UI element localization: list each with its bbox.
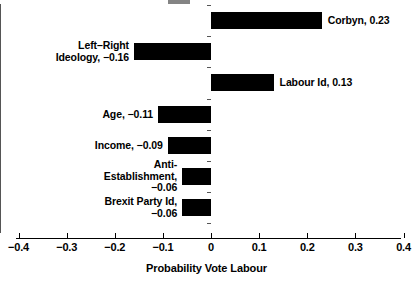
x-tick: [163, 233, 164, 238]
bar-label-line: Ideology, −0.16: [56, 52, 129, 64]
bar-label-line: −0.06: [104, 182, 177, 194]
x-axis-title: Probability Vote Labour: [0, 262, 413, 274]
x-tick: [115, 233, 116, 238]
x-tick: [67, 233, 68, 238]
x-tick: [19, 233, 20, 238]
x-tick-label: 0.4: [382, 241, 413, 253]
bar-corbyn: [211, 12, 322, 29]
category-tick: [207, 161, 211, 162]
category-tick: [207, 99, 211, 100]
x-tick: [355, 233, 356, 238]
bar-anti-establishment: [182, 168, 211, 185]
x-tick: [259, 233, 260, 238]
bar-age: [158, 106, 211, 123]
x-tick: [404, 233, 405, 238]
bar-label-line: Income, −0.09: [95, 137, 163, 154]
category-tick: [207, 192, 211, 193]
bar-row: Brexit Party Id,−0.06: [0, 199, 413, 222]
bar-chart: Corbyn, 0.23Left–RightIdeology, −0.16Lab…: [0, 0, 413, 282]
bar-row: Corbyn, 0.23: [0, 12, 413, 35]
bar-income: [168, 137, 211, 154]
bar-label-line: −0.06: [105, 208, 178, 220]
x-tick-label: −0.2: [93, 241, 137, 253]
x-tick-label: 0.2: [285, 241, 329, 253]
x-tick-label: 0.3: [333, 241, 377, 253]
bar-row: Anti-Establishment,−0.06: [0, 168, 413, 191]
bar-label: Anti-Establishment,−0.06: [104, 159, 177, 194]
bar-left-right-ideology: [134, 43, 211, 60]
x-axis-line: [16, 238, 401, 239]
bar-row: Age, −0.11: [0, 106, 413, 129]
bar-label: Age, −0.11: [102, 106, 153, 123]
category-tick: [207, 67, 211, 68]
category-tick: [207, 223, 211, 224]
category-tick: [207, 36, 211, 37]
x-tick-label: −0.4: [0, 241, 41, 253]
bar-label: Corbyn, 0.23: [328, 12, 390, 29]
bar-label: Left–RightIdeology, −0.16: [56, 40, 129, 63]
bar-row: Left–RightIdeology, −0.16: [0, 43, 413, 66]
category-tick: [207, 5, 211, 6]
x-tick: [307, 233, 308, 238]
bar-label-line: Corbyn, 0.23: [328, 12, 390, 29]
bar-label-line: Age, −0.11: [102, 106, 153, 123]
bar-label-line: Anti-: [104, 159, 177, 171]
bar-row: Labour Id, 0.13: [0, 74, 413, 97]
bar-labour-id: [211, 74, 274, 91]
bar-label: Income, −0.09: [95, 137, 163, 154]
bar-label-line: Brexit Party Id,: [105, 196, 178, 208]
bar-brexit-party-id: [182, 199, 211, 216]
x-tick-label: −0.1: [141, 241, 185, 253]
bar-label: Brexit Party Id,−0.06: [105, 196, 178, 219]
bar-row: Income, −0.09: [0, 137, 413, 160]
bar-label-line: Labour Id, 0.13: [280, 74, 353, 91]
x-tick-label: 0.1: [237, 241, 281, 253]
x-tick: [211, 233, 212, 238]
bar-label-line: Left–Right: [56, 40, 129, 52]
x-tick-label: 0: [189, 241, 233, 253]
plot-area: Corbyn, 0.23Left–RightIdeology, −0.16Lab…: [0, 0, 413, 232]
category-tick: [207, 130, 211, 131]
x-tick-label: −0.3: [45, 241, 89, 253]
bar-label: Labour Id, 0.13: [280, 74, 353, 91]
